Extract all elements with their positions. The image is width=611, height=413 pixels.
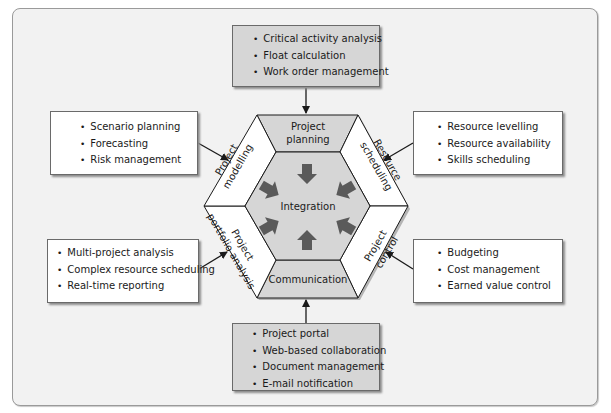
feature-item: Web-based collaboration xyxy=(252,343,379,360)
feature-item: Forecasting xyxy=(80,136,197,153)
feature-item: Resource availability xyxy=(437,136,562,153)
feature-item: Project portal xyxy=(252,326,379,343)
feature-item: Skills scheduling xyxy=(437,152,562,169)
feature-item: Work order management xyxy=(253,64,379,81)
box-project-control-features: Budgeting Cost management Earned value c… xyxy=(413,239,563,303)
feature-item: Complex resource scheduling xyxy=(57,262,198,279)
feature-item: Resource levelling xyxy=(437,119,562,136)
box-portfolio-analysis-features: Multi-project analysis Complex resource … xyxy=(47,239,199,303)
feature-item: Earned value control xyxy=(437,278,562,295)
box-project-modelling-features: Scenario planning Forecasting Risk manag… xyxy=(50,111,198,175)
feature-item: Real-time reporting xyxy=(57,278,198,295)
feature-item: Scenario planning xyxy=(80,119,197,136)
feature-item: Budgeting xyxy=(437,245,562,262)
box-communication-features: Project portal Web-based collaboration D… xyxy=(232,323,380,391)
feature-item: Document management xyxy=(252,359,379,376)
center-label: Integration xyxy=(280,201,335,212)
feature-item: Multi-project analysis xyxy=(57,245,198,262)
feature-item: Cost management xyxy=(437,262,562,279)
connector-left-upper xyxy=(198,143,228,160)
connector-right-lower xyxy=(386,252,413,269)
feature-item: Float calculation xyxy=(253,48,379,65)
box-project-planning-features: Critical activity analysis Float calcula… xyxy=(232,25,380,87)
label-project-planning-2: planning xyxy=(286,134,329,145)
feature-item: E-mail notification xyxy=(252,376,379,393)
feature-item: Risk management xyxy=(80,152,197,169)
label-project-planning-1: Project xyxy=(291,121,325,132)
box-resource-scheduling-features: Resource levelling Resource availability… xyxy=(413,111,563,175)
label-communication: Communication xyxy=(269,274,348,285)
feature-item: Critical activity analysis xyxy=(253,31,379,48)
